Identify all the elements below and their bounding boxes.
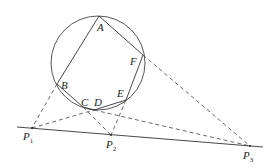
label-a: A xyxy=(97,22,104,33)
label-b: B xyxy=(61,80,68,91)
dashed-c-p2 xyxy=(83,107,111,135)
label-p3: P3 xyxy=(243,150,253,164)
label-p1-main: P xyxy=(23,130,30,142)
point-p3 xyxy=(249,145,251,147)
label-p1: P1 xyxy=(23,131,33,145)
geometry-diagram: A B C D E F P1 P2 P3 xyxy=(0,0,273,168)
dashed-p1-d xyxy=(32,110,94,128)
pascal-line xyxy=(17,127,263,147)
diagram-canvas xyxy=(0,0,273,168)
label-p1-sub: 1 xyxy=(30,137,34,145)
dashed-f-p3 xyxy=(143,55,250,146)
label-e: E xyxy=(117,88,124,99)
point-p1 xyxy=(31,127,33,129)
label-p3-main: P xyxy=(243,149,250,161)
label-c: C xyxy=(81,97,88,108)
dashed-extensions xyxy=(32,55,250,146)
label-p2: P2 xyxy=(106,139,116,153)
point-p2 xyxy=(110,134,112,136)
label-p3-sub: 3 xyxy=(250,156,254,164)
label-p2-main: P xyxy=(106,138,113,150)
label-p2-sub: 2 xyxy=(113,145,117,153)
dashed-ab-ext xyxy=(32,84,57,128)
label-f: F xyxy=(130,56,137,67)
dashed-d-p3 xyxy=(94,110,250,146)
label-d: D xyxy=(94,97,102,108)
